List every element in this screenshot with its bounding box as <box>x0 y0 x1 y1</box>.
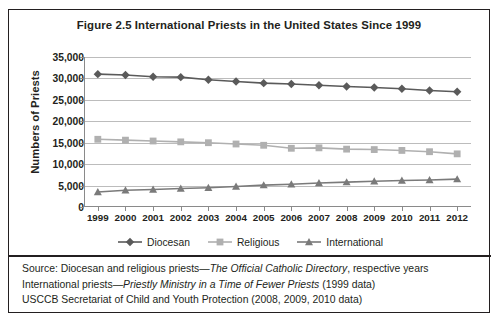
series-religious <box>94 136 460 157</box>
legend-item-international[interactable]: International <box>296 236 383 248</box>
plot-area <box>84 57 471 207</box>
x-axis-tick <box>236 207 237 211</box>
series-international <box>94 175 461 195</box>
source-line1-prefix: Source: Diocesan and religious priests— <box>22 263 210 274</box>
source-line1-title: The Official Catholic Directory <box>210 263 347 274</box>
source-note-line-1: Source: Diocesan and religious priests—T… <box>22 261 482 277</box>
x-axis-tick <box>457 207 458 211</box>
y-axis-tick <box>80 207 84 208</box>
y-tick-label: 15,000 <box>24 137 84 148</box>
x-axis-tick <box>402 207 403 211</box>
data-point-diamond <box>315 81 323 89</box>
legend-marker-diamond-icon <box>117 236 143 248</box>
x-axis-tick <box>374 207 375 211</box>
x-axis-tick <box>153 207 154 211</box>
data-point-square <box>454 150 461 157</box>
data-point-square <box>398 147 405 154</box>
series-diocesan <box>94 70 462 96</box>
legend-marker-triangle-icon <box>296 236 322 248</box>
legend-marker-square-icon <box>207 236 233 248</box>
data-point-diamond <box>94 70 102 78</box>
data-point-diamond <box>232 77 240 85</box>
x-axis-tick <box>319 207 320 211</box>
chart-legend: DiocesanReligiousInternational <box>9 236 491 248</box>
source-note-line-2: International priests—Priestly Ministry … <box>22 277 482 293</box>
data-point-square <box>122 137 129 144</box>
data-point-diamond <box>370 83 378 91</box>
x-axis-tick <box>125 207 126 211</box>
data-point-diamond <box>149 73 157 81</box>
x-axis-tick <box>98 207 99 211</box>
legend-item-diocesan[interactable]: Diocesan <box>117 236 190 248</box>
data-point-diamond <box>126 238 134 246</box>
y-tick-label: 30,000 <box>24 73 84 84</box>
data-point-square <box>233 141 240 148</box>
data-point-square <box>316 144 323 151</box>
figure-container: Figure 2.5 International Priests in the … <box>8 9 490 313</box>
data-point-diamond <box>259 79 267 87</box>
source-line2-suffix: (1999 data) <box>319 279 375 290</box>
y-tick-label: 20,000 <box>24 116 84 127</box>
data-point-square <box>94 136 101 143</box>
source-line2-title: Priestly Ministry in a Time of Fewer Pri… <box>123 279 319 290</box>
y-tick-label: 10,000 <box>24 159 84 170</box>
data-point-square <box>426 148 433 155</box>
data-point-square <box>260 142 267 149</box>
source-line2-prefix: International priests— <box>22 279 123 290</box>
y-tick-label: 35,000 <box>24 52 84 63</box>
y-tick-label: 25,000 <box>24 94 84 105</box>
legend-label: Diocesan <box>147 237 190 248</box>
data-point-square <box>343 146 350 153</box>
data-point-square <box>371 146 378 153</box>
data-point-diamond <box>204 76 212 84</box>
footer-divider <box>9 255 491 257</box>
data-point-diamond <box>425 86 433 94</box>
data-point-square <box>150 138 157 145</box>
chart-plot-wrapper: Numbers of Priests 05,00010,00015,00020,… <box>9 38 491 238</box>
legend-item-religious[interactable]: Religious <box>207 236 279 248</box>
x-tick-label: 2012 <box>434 212 480 223</box>
source-line1-suffix: , respective years <box>347 263 428 274</box>
x-axis-tick <box>430 207 431 211</box>
data-point-square <box>217 239 224 246</box>
data-point-diamond <box>453 88 461 96</box>
series-plot <box>84 57 471 207</box>
data-point-diamond <box>121 71 129 79</box>
data-point-diamond <box>342 82 350 90</box>
y-tick-label: 0 <box>24 202 84 213</box>
x-axis-tick <box>181 207 182 211</box>
source-notes: Source: Diocesan and religious priests—T… <box>22 261 482 308</box>
x-axis-tick <box>347 207 348 211</box>
legend-label: Religious <box>237 237 279 248</box>
figure-title: Figure 2.5 International Priests in the … <box>9 19 489 31</box>
source-note-line-3: USCCB Secretariat of Child and Youth Pro… <box>22 292 482 308</box>
data-point-square <box>177 138 184 145</box>
x-axis-tick <box>264 207 265 211</box>
y-tick-label: 5,000 <box>24 180 84 191</box>
data-point-diamond <box>287 80 295 88</box>
data-point-diamond <box>177 73 185 81</box>
data-point-square <box>288 145 295 152</box>
x-axis-tick <box>208 207 209 211</box>
x-axis-tick <box>291 207 292 211</box>
legend-label: International <box>326 237 383 248</box>
data-point-square <box>205 139 212 146</box>
data-point-diamond <box>398 85 406 93</box>
